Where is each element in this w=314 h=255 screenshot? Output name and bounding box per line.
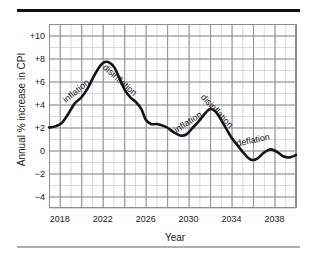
x-axis-tick-label: 2030: [172, 214, 206, 224]
y-axis-title: Annual % increase in CPI: [16, 35, 27, 185]
x-axis-tick-label: 2034: [215, 214, 249, 224]
x-axis-tick-label: 2018: [43, 214, 77, 224]
y-axis-tick-label: −4: [19, 192, 45, 202]
x-axis-title: Year: [120, 232, 230, 243]
x-axis-tick-label: 2026: [129, 214, 163, 224]
x-axis-tick-label: 2022: [86, 214, 120, 224]
x-axis-tick-label: 2038: [258, 214, 292, 224]
figure-container: −4−20+2+4+6+8+10201820222026203020342038…: [0, 0, 314, 255]
plot-background: [49, 24, 296, 208]
